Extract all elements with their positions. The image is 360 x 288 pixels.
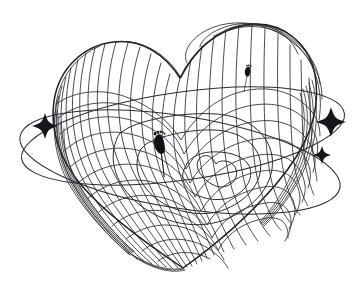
wireframe-heart-illustration — [0, 0, 360, 288]
illustration-canvas — [0, 0, 360, 288]
